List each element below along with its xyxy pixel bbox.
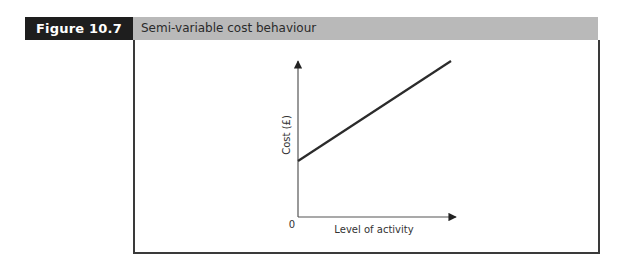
y-axis-label: Cost (£) bbox=[281, 115, 292, 155]
chart-canvas: 0 Level of activity Cost (£) bbox=[0, 0, 626, 264]
origin-label: 0 bbox=[289, 219, 295, 230]
cost-line bbox=[298, 61, 451, 161]
x-axis-label: Level of activity bbox=[334, 224, 413, 235]
